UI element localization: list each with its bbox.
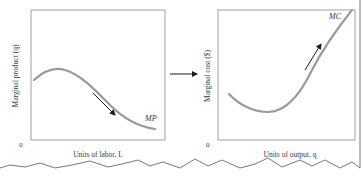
diagram-canvas: MP 0 Units of labor, L Marginal product …	[0, 0, 363, 179]
right-y-axis-label: Marginal cost ($)	[203, 50, 212, 102]
left-y-axis-label: Marginal product (q)	[11, 44, 20, 107]
right-x-axis-label: Units of output, q	[264, 150, 317, 159]
torn-paper-edge	[0, 0, 360, 168]
mp-curve-label: MP	[144, 114, 157, 123]
left-panel-mp: MP 0 Units of labor, L Marginal product …	[11, 10, 165, 159]
mc-curve-label: MC	[328, 12, 342, 21]
right-plot-frame	[218, 10, 355, 140]
mp-down-arrow-icon	[93, 93, 115, 115]
mp-curve	[34, 69, 155, 129]
mc-curve	[229, 10, 352, 112]
right-origin-label: 0	[206, 141, 210, 149]
left-x-axis-label: Units of labor, L	[73, 150, 123, 159]
right-panel-mc: MC 0 Units of output, q Marginal cost ($…	[203, 10, 355, 159]
left-origin-label: 0	[19, 141, 23, 149]
